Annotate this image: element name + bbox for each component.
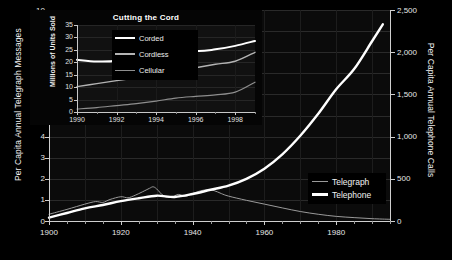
y-right-tick <box>391 94 395 95</box>
y-left-tick <box>45 179 49 180</box>
inset-x-tick-minor <box>97 112 98 114</box>
inset-y-tick <box>74 25 77 26</box>
y-right-tick <box>391 221 395 222</box>
inset-y-tick <box>74 37 77 38</box>
legend-label-corded: Corded <box>139 34 164 43</box>
legend-item-corded[interactable]: Corded <box>112 30 198 46</box>
y-right-tick-label: 0 <box>397 217 401 226</box>
y-left-tick <box>45 137 49 138</box>
inset-y-tick <box>74 50 77 51</box>
inset-x-tick-major <box>156 112 157 115</box>
y-right-tick-label: 500 <box>397 174 410 183</box>
legend-item-cordless[interactable]: Cordless <box>112 46 198 62</box>
inset-x-tick-minor <box>255 112 256 114</box>
inset-y-tick-label: 15 <box>54 71 73 79</box>
inset-y-tick <box>74 75 77 76</box>
legend-item-telephone[interactable]: Telephone <box>312 188 382 201</box>
inset-x-tick-label: 1990 <box>65 116 89 124</box>
x-tick-minor <box>157 221 158 224</box>
x-tick-minor <box>211 221 212 224</box>
y-left-tick-label: 0 <box>18 217 45 226</box>
inset-y-tick <box>74 62 77 63</box>
inset-y-tick-label: 35 <box>54 21 73 29</box>
x-tick-label: 1940 <box>180 228 206 237</box>
inset-x-tick-major <box>77 112 78 115</box>
x-tick-label: 1980 <box>323 228 349 237</box>
chart-figure: 19001920194019601980 012345678910 05001,… <box>0 0 452 260</box>
series-line-cellular <box>77 82 255 109</box>
inset-y-tick-label: 10 <box>54 83 73 91</box>
inset-y-axis-title: Millions of Units Sold <box>49 8 56 96</box>
inset-x-tick-major <box>235 112 236 115</box>
x-tick-minor <box>318 221 319 224</box>
legend-label-telegraph: Telegraph <box>332 177 369 187</box>
x-tick-label: 1920 <box>108 228 134 237</box>
inset-y-tick-label: 25 <box>54 46 73 54</box>
x-tick-minor <box>85 221 86 224</box>
x-tick-minor <box>229 221 230 224</box>
x-tick-minor <box>175 221 176 224</box>
y-left-tick <box>45 200 49 201</box>
inset-x-tick-label: 1996 <box>184 116 208 124</box>
inset-x-tick-minor <box>215 112 216 114</box>
x-tick-label: 1960 <box>251 228 277 237</box>
inset-y-tick <box>74 112 77 113</box>
x-tick-label: 1900 <box>36 228 62 237</box>
legend-label-telephone: Telephone <box>332 190 371 200</box>
inset-x-tick-minor <box>136 112 137 114</box>
inset-legend: Corded Cordless Cellular <box>112 30 198 80</box>
inset-y-axis-line <box>77 25 78 112</box>
legend-swatch-cordless <box>115 53 135 54</box>
y-left-axis-title: Per Capita Annual Telegraph Messages <box>13 41 23 181</box>
x-tick-major <box>49 221 50 225</box>
x-tick-minor <box>103 221 104 224</box>
legend-swatch-cellular <box>115 70 135 71</box>
inset-x-tick-major <box>196 112 197 115</box>
y-right-tick-label: 1,500 <box>397 90 417 99</box>
legend-swatch-telephone <box>312 193 328 196</box>
inset-y-tick-label: 5 <box>54 96 73 104</box>
x-tick-major <box>193 221 194 225</box>
inset-x-tick-major <box>117 112 118 115</box>
x-tick-major <box>264 221 265 225</box>
x-tick-major <box>121 221 122 225</box>
x-tick-minor <box>354 221 355 224</box>
y-right-axis-line <box>390 10 391 221</box>
x-tick-minor <box>67 221 68 224</box>
inset-y-tick-label: 20 <box>54 58 73 66</box>
y-right-tick <box>391 52 395 53</box>
main-legend: Telegraph Telephone <box>308 173 386 204</box>
inset-y-tick-label: 0 <box>54 108 73 116</box>
legend-swatch-corded <box>115 37 135 39</box>
y-left-tick-label: 1 <box>18 195 45 204</box>
y-right-tick <box>391 137 395 138</box>
y-right-axis-title: Per Capita Annual Telephone Calls <box>426 35 436 185</box>
inset-x-tick-label: 1998 <box>223 116 247 124</box>
inset-y-tick <box>74 100 77 101</box>
x-tick-minor <box>300 221 301 224</box>
y-right-tick <box>391 10 395 11</box>
y-right-tick <box>391 179 395 180</box>
y-right-tick-label: 2,500 <box>397 6 417 15</box>
x-tick-major <box>336 221 337 225</box>
legend-item-cellular[interactable]: Cellular <box>112 62 198 78</box>
inset-y-tick <box>74 87 77 88</box>
inset-y-tick-label: 30 <box>54 33 73 41</box>
y-right-tick-label: 1,000 <box>397 132 417 141</box>
legend-label-cordless: Cordless <box>139 50 169 59</box>
inset-x-tick-label: 1994 <box>144 116 168 124</box>
inset-x-axis-line <box>77 112 255 113</box>
x-tick-minor <box>246 221 247 224</box>
y-right-tick-label: 2,000 <box>397 48 417 57</box>
legend-item-telegraph[interactable]: Telegraph <box>312 175 382 188</box>
inset-chart: Cutting the Cord 19901992199419961998 05… <box>30 10 262 125</box>
x-tick-minor <box>139 221 140 224</box>
legend-label-cellular: Cellular <box>139 66 164 75</box>
x-tick-minor <box>282 221 283 224</box>
x-tick-minor <box>372 221 373 224</box>
y-left-tick <box>45 221 49 222</box>
x-axis-line <box>49 221 390 222</box>
y-left-tick <box>45 158 49 159</box>
inset-x-tick-minor <box>176 112 177 114</box>
inset-x-tick-label: 1992 <box>105 116 129 124</box>
